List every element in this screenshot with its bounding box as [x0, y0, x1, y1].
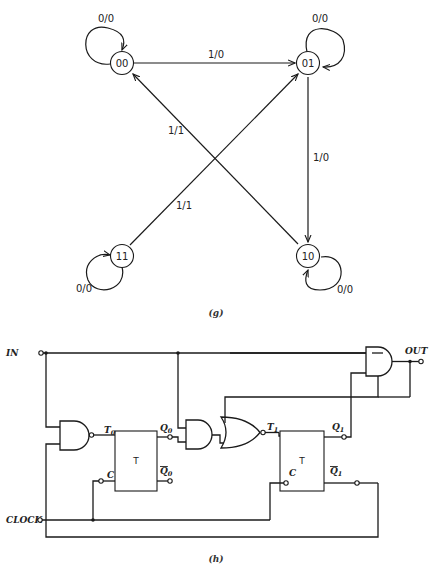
in-label: IN	[5, 348, 19, 358]
and2-to-or	[212, 435, 225, 443]
q0-to-and2	[172, 437, 186, 442]
state-01-label: 01	[302, 58, 315, 69]
q1-to-out-and	[346, 373, 366, 437]
state-10: 10	[297, 245, 320, 268]
label-00-01: 1/0	[208, 49, 224, 60]
and-gate-1	[60, 421, 89, 450]
caption-h: (h)	[208, 554, 223, 564]
out-terminal	[419, 359, 423, 363]
edge-11-to-01	[130, 74, 298, 245]
state-00: 00	[111, 52, 134, 75]
qbar1-feedback	[46, 444, 378, 537]
state-diagram: 00 01 10 11 0/0 1/0 0/0 1/0 0/0 1/1 0/0 …	[76, 13, 353, 318]
label-00-00: 0/0	[98, 13, 114, 24]
ff1-type: T	[298, 456, 305, 466]
ff0-type: T	[132, 456, 139, 466]
label-01-10: 1/0	[313, 152, 329, 163]
ff1-q: Q1	[332, 422, 344, 434]
figure-canvas: 00 01 10 11 0/0 1/0 0/0 1/0 0/0 1/1 0/0 …	[0, 0, 438, 571]
state-10-label: 10	[302, 251, 315, 262]
label-01-01: 0/0	[312, 13, 328, 24]
state-00-label: 00	[116, 58, 129, 69]
caption-g: (g)	[209, 308, 224, 318]
and-gate-2	[186, 420, 212, 449]
clock-terminal	[38, 518, 42, 522]
logic-circuit: IN T T0 C Q0 Q0	[5, 346, 429, 564]
ff0-c-pin: C	[107, 470, 115, 480]
ff1-c-pin: C	[289, 468, 297, 478]
state-11-label: 11	[116, 251, 129, 262]
out-and-gate	[366, 347, 392, 376]
in-terminal	[39, 351, 43, 355]
label-10-00: 1/1	[168, 125, 184, 136]
ff0-q: Q0	[160, 423, 173, 435]
ff1-qbar: Q1	[330, 466, 342, 478]
clock-to-ff0	[93, 481, 99, 520]
label-10-10: 0/0	[337, 284, 353, 295]
label-11-01: 1/1	[176, 200, 192, 211]
state-11: 11	[111, 245, 134, 268]
ff0-qbar: Q0	[160, 466, 173, 478]
out-feedback	[225, 375, 378, 423]
or-gate	[221, 417, 260, 448]
state-01: 01	[297, 52, 320, 75]
label-11-11: 0/0	[76, 283, 92, 294]
in-to-and1	[46, 353, 60, 427]
in-to-and2	[178, 353, 186, 428]
out-label: OUT	[405, 346, 429, 356]
